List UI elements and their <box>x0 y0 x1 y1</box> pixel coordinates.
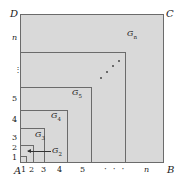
y-tick-4: 4 <box>12 116 17 124</box>
region-label-g4: G4 <box>51 112 61 122</box>
y-tick-1: 1 <box>12 154 17 162</box>
region-label-g5-sub: 5 <box>78 93 82 99</box>
corner-label-d: D <box>10 9 18 19</box>
x-axis-ellipsis: · · · <box>104 165 126 174</box>
corner-label-c: C <box>166 9 174 19</box>
region-label-gn: Gn <box>127 30 137 40</box>
region-label-gn-sub: n <box>133 34 137 40</box>
region-label-g2-sub: 2 <box>58 151 62 157</box>
x-tick-3: 3 <box>41 166 46 174</box>
x-tick-5: 5 <box>80 166 85 174</box>
g2-leader-arrow <box>28 151 51 152</box>
nested-squares-diagram: D C A B Gn G5 G4 G3 G2 n ⋮ 5 4 3 2 1 1 2… <box>0 0 180 179</box>
corner-label-b: B <box>167 165 174 175</box>
y-tick-2: 2 <box>12 144 17 152</box>
region-label-g3-sub: 3 <box>41 135 45 141</box>
x-tick-4: 4 <box>57 166 62 174</box>
y-tick-n: n <box>12 34 17 42</box>
x-tick-2: 2 <box>29 166 34 174</box>
region-rect-unit <box>20 156 27 163</box>
region-label-g4-sub: 4 <box>57 116 61 122</box>
diagonal-ellipsis <box>99 60 125 80</box>
y-axis-ellipsis: ⋮ <box>14 66 22 74</box>
region-label-g3: G3 <box>35 131 45 141</box>
x-tick-n: n <box>144 166 149 174</box>
y-tick-5: 5 <box>12 95 17 103</box>
region-label-g5: G5 <box>72 89 82 99</box>
region-label-g2: G2 <box>52 147 62 157</box>
x-tick-1: 1 <box>21 166 26 174</box>
y-tick-3: 3 <box>12 134 17 142</box>
